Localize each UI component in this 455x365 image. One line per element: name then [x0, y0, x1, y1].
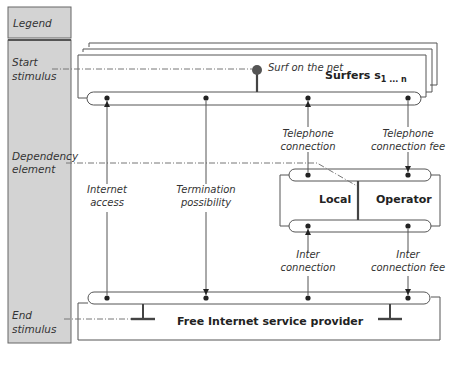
surfers-box-left	[78, 55, 88, 98]
legend-dependency-line2: element	[12, 163, 56, 175]
legend-panel: Legend Start stimulus Dependency element…	[8, 7, 79, 343]
surfers-value-interface[interactable]	[87, 92, 421, 105]
port-lo-telephone-connection[interactable]	[305, 172, 310, 177]
inter-fee-label-1: Inter	[396, 249, 420, 260]
telephone-fee-label-1: Telephone	[382, 128, 433, 139]
legend-start-line1: Start	[12, 56, 39, 68]
inter-connection-label-2: connection	[280, 262, 335, 273]
telephone-fee-label-2: connection fee	[371, 141, 445, 152]
surfers-market-segment[interactable]: Surfers s1 ... n Surf on the net	[78, 43, 437, 105]
legend-start-line2: stimulus	[12, 70, 57, 82]
isp-value-interface[interactable]	[88, 292, 430, 304]
legend-header: Legend	[13, 17, 52, 29]
internet-access-label-1: Internet	[87, 184, 128, 195]
port-internet-access-out[interactable]	[104, 95, 109, 100]
operator-label: Operator	[376, 193, 432, 206]
internet-access-label-2: access	[90, 197, 124, 208]
local-label: Local	[319, 193, 351, 206]
port-termination-in[interactable]	[203, 95, 208, 100]
telephone-connection-label-1: Telephone	[282, 128, 333, 139]
legend-body-box	[8, 40, 71, 343]
port-isp-internet-access[interactable]	[104, 295, 109, 300]
start-stimulus-icon[interactable]	[252, 65, 262, 75]
isp-actor[interactable]: Free Internet service provider	[78, 292, 440, 340]
termination-label-2: possibility	[180, 197, 232, 208]
e3value-diagram: Legend Start stimulus Dependency element…	[0, 0, 455, 365]
inter-connection-label-1: Inter	[296, 249, 320, 260]
legend-end-line1: End	[12, 309, 32, 321]
port-isp-termination[interactable]	[203, 295, 208, 300]
port-isp-inter-connection[interactable]	[305, 295, 310, 300]
legend-dependency-line1: Dependency	[12, 150, 79, 162]
port-telephone-connection[interactable]	[305, 95, 310, 100]
isp-label: Free Internet service provider	[177, 315, 364, 328]
local-operator-actor[interactable]: Local Operator	[280, 169, 440, 232]
termination-label-1: Termination	[176, 184, 235, 195]
port-lo-inter-connection[interactable]	[305, 223, 310, 228]
inter-fee-label-2: connection fee	[371, 262, 445, 273]
port-lo-inter-fee[interactable]	[405, 223, 410, 228]
telephone-connection-label-2: connection	[280, 141, 335, 152]
port-lo-telephone-fee[interactable]	[405, 172, 410, 177]
port-telephone-fee[interactable]	[405, 95, 410, 100]
legend-end-line2: stimulus	[12, 323, 57, 335]
port-isp-inter-fee[interactable]	[405, 295, 410, 300]
start-stimulus-label: Surf on the net	[268, 62, 344, 73]
lo-box-left	[280, 175, 289, 226]
